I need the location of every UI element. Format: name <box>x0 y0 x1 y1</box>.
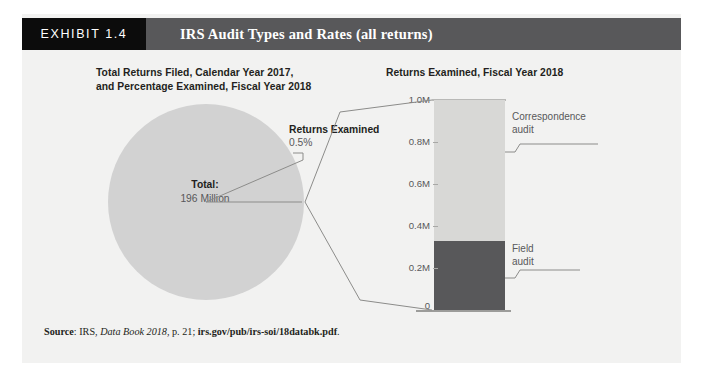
source-period: . <box>337 326 340 337</box>
source-middle: , p. 21; <box>167 326 198 337</box>
fan-line-bottom <box>305 202 432 310</box>
leader-lines <box>0 0 702 379</box>
source-note: Source: IRS, Data Book 2018, p. 21; irs.… <box>44 326 340 337</box>
pie-slice-edge-line-2 <box>206 160 303 202</box>
source-colon: : IRS, <box>74 326 100 337</box>
fan-line-top <box>305 100 432 202</box>
source-url: irs.gov/pub/irs-soi/18databk.pdf <box>198 326 337 337</box>
legend-hook-correspondence <box>505 144 598 152</box>
legend-hook-field <box>505 270 580 278</box>
callout-hook <box>293 153 303 160</box>
source-prefix: Source <box>44 326 74 337</box>
source-italic-title: Data Book 2018 <box>100 326 167 337</box>
